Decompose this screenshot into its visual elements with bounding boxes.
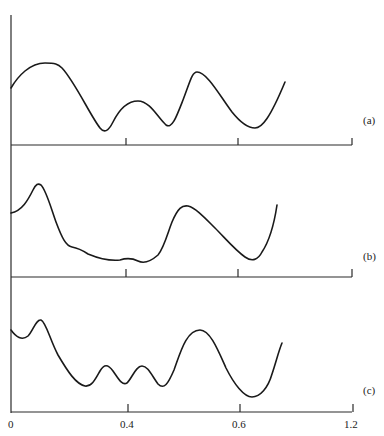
panel-b-curve	[11, 184, 277, 262]
panel-a: (a)	[11, 63, 376, 145]
x-tick-label-2: 0.6	[232, 418, 246, 430]
x-tick-label-0: 0	[8, 418, 14, 430]
x-tick-label-3: 1.2	[344, 418, 358, 430]
panel-c-label: (c)	[363, 384, 376, 397]
panel-a-label: (a)	[363, 114, 376, 127]
panel-c: (c)	[11, 320, 376, 412]
stacked-line-chart: (a) (b) (c) 0 0.4 0.6 1.2	[0, 0, 384, 436]
x-tick-labels: 0 0.4 0.6 1.2	[8, 418, 358, 430]
panel-c-curve	[11, 320, 282, 397]
panel-b-label: (b)	[363, 250, 376, 263]
panel-b: (b)	[11, 184, 376, 277]
panel-a-curve	[11, 63, 285, 131]
x-tick-label-1: 0.4	[120, 418, 134, 430]
